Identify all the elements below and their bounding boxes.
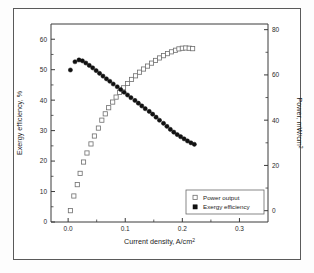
figure-container: 01020304050600204060800.00.10.20.3Curren… [0,0,314,273]
data-point-efficiency [68,68,72,72]
data-point-power [107,106,111,110]
series-power-output [68,46,194,213]
legend-label: Exergy efficiency [203,203,251,210]
data-point-power [92,134,96,138]
y-tick-label-left: 20 [40,157,48,164]
data-point-power [191,47,195,51]
data-point-power [75,183,79,187]
data-point-power [129,77,133,81]
data-point-efficiency [157,118,161,122]
data-point-power [153,58,157,62]
y-tick-label-left: 30 [40,127,48,134]
data-point-power [165,52,169,56]
data-point-power [114,95,118,99]
data-point-power [141,67,145,71]
data-point-power [111,100,115,104]
y-axis-title-left: Exergy efficiency, % [15,90,24,155]
y-axis-title-right: Power, mW/cm2 [295,97,304,148]
legend: Power outputExergy efficiency [186,190,264,214]
x-tick-label: 0.2 [178,225,187,232]
data-point-power [81,160,85,164]
data-point-power [96,126,100,130]
data-point-power [125,81,129,85]
data-point-power [72,194,76,198]
y-tick-label-left: 50 [40,66,48,73]
y-tick-label-left: 40 [40,97,48,104]
data-point-power [145,64,149,68]
y-tick-label-right: 40 [272,117,280,124]
data-point-power [89,142,93,146]
x-axis-title: Current density, A/cm2 [124,237,195,246]
y-tick-label-left: 60 [40,36,48,43]
x-tick-label: 0.3 [235,225,244,232]
data-point-power [103,112,107,116]
legend-marker-power-output [193,195,197,199]
data-point-efficiency [154,115,158,119]
x-tick-label: 0.1 [121,225,130,232]
data-point-efficiency [165,124,169,128]
y-tick-label-left: 10 [40,188,48,195]
data-point-power [161,54,165,58]
data-point-efficiency [143,107,147,111]
data-point-power [68,209,72,213]
data-point-power [169,50,173,54]
data-point-power [149,61,153,65]
data-point-power [78,171,82,175]
data-point-power [133,74,137,78]
y-tick-label-right: 80 [272,26,280,33]
data-point-power [157,56,161,60]
scatter-plot: 01020304050600204060800.00.10.20.3Curren… [0,0,314,273]
data-point-power [100,118,104,122]
data-point-efficiency [73,60,77,64]
y-tick-label-right: 60 [272,71,280,78]
data-point-efficiency [192,142,196,146]
y-tick-label-left: 0 [43,218,47,225]
legend-marker-exergy-efficiency [193,205,197,209]
data-point-efficiency [161,121,165,125]
data-point-efficiency [129,96,133,100]
y-tick-label-right: 0 [272,207,276,214]
series-exergy-efficiency [68,58,196,147]
data-point-power [137,70,141,74]
data-point-efficiency [111,82,115,86]
data-point-efficiency [151,112,155,116]
y-tick-label-right: 20 [272,162,280,169]
x-tick-label: 0.0 [64,225,73,232]
data-point-power [85,151,89,155]
legend-label: Power output [203,194,240,201]
